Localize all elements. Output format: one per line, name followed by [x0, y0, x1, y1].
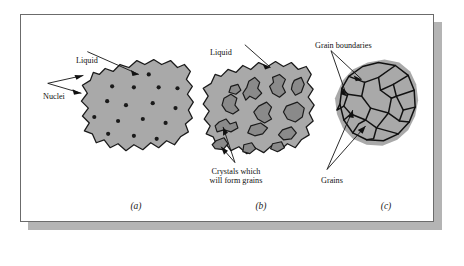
label-grains: Grains: [321, 176, 343, 185]
nucleus-dot: [116, 119, 120, 123]
nucleus-dot: [175, 86, 179, 90]
caption-panel-b: (b): [241, 201, 281, 211]
nucleus-dot: [92, 115, 96, 119]
nucleus-dot: [141, 117, 145, 121]
liquid-blob-a: [81, 60, 193, 151]
leader-arrowhead-nuclei-2: [73, 89, 82, 94]
leader-arrowhead-nuclei-1: [74, 75, 83, 80]
nucleus-dot: [124, 103, 128, 107]
label-crystals-line1: Crystals which: [212, 167, 261, 176]
nucleus-dot: [106, 132, 110, 136]
label-liquid-a: Liquid: [76, 56, 98, 65]
panel-c-graphic: [327, 51, 418, 170]
label-crystals-line2: will form grains: [210, 176, 263, 185]
label-grain-boundaries: Grain boundaries: [315, 41, 372, 50]
nucleus-dot: [157, 85, 161, 89]
nucleus-dot: [155, 137, 159, 141]
label-liquid-b: Liquid: [210, 48, 232, 57]
nucleus-dot: [173, 106, 177, 110]
panel-b-graphic: [203, 45, 314, 163]
figure-root: Liquid Nuclei Liquid Crystals which will…: [0, 0, 464, 266]
label-nuclei: Nuclei: [43, 92, 65, 101]
caption-panel-c: (c): [366, 201, 406, 211]
nucleus-dot: [164, 121, 168, 125]
nucleus-dot: [147, 72, 151, 76]
caption-panel-a: (a): [116, 201, 156, 211]
crystal-shape: [271, 142, 285, 152]
nucleus-dot: [151, 101, 155, 105]
nucleus-dot: [105, 99, 109, 103]
label-crystals: Crystals which will form grains: [199, 167, 273, 186]
nucleus-dot: [110, 84, 114, 88]
grain-body-blob: [335, 60, 418, 146]
nucleus-dot: [132, 134, 136, 138]
nucleus-dot: [132, 85, 136, 89]
panel-a-graphic: [48, 52, 194, 151]
figure-frame: Liquid Nuclei Liquid Crystals which will…: [20, 14, 434, 222]
leader-line-grains-2: [327, 126, 366, 170]
